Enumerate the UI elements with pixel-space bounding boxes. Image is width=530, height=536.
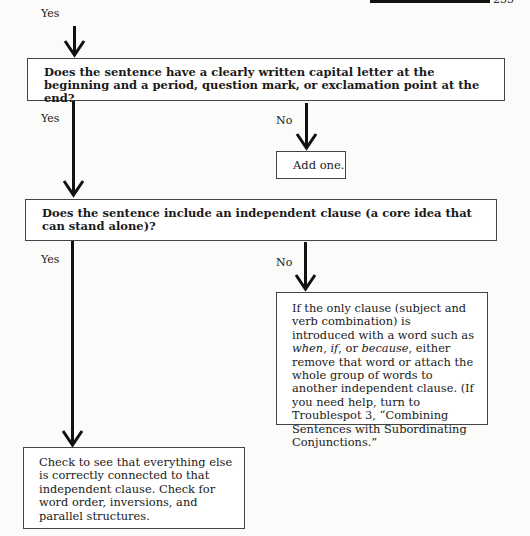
arrow-down-icon	[62, 430, 83, 446]
question-2-box: Does the sentence include an independent…	[25, 199, 497, 241]
arrow-down-icon	[63, 180, 84, 196]
add-one-text: Add one.	[293, 158, 344, 172]
advice-sep2: , or	[338, 341, 361, 355]
start-yes-label: Yes	[41, 7, 59, 20]
arrow-down-icon	[64, 40, 85, 56]
q2-yes-label: Yes	[41, 253, 59, 266]
q1-yes-label: Yes	[41, 112, 59, 125]
question-1-text: Does the sentence have a clearly written…	[44, 65, 479, 105]
header-bar	[370, 0, 490, 3]
advice-text-part1: If the only clause (subject and verb com…	[292, 301, 474, 342]
question-1-box: Does the sentence have a clearly written…	[27, 58, 505, 101]
arrow-down-icon	[295, 274, 316, 290]
check-text: Check to see that everything else is cor…	[39, 455, 232, 523]
q2-no-label: No	[276, 256, 292, 269]
independent-clause-check-box: Check to see that everything else is cor…	[23, 447, 245, 529]
advice-em-when: when	[292, 341, 323, 355]
arrow-down-icon	[296, 133, 317, 149]
add-one-box: Add one.	[276, 151, 346, 179]
advice-text-part2: , either remove that word or attach the …	[292, 341, 474, 449]
q1-no-label: No	[276, 114, 292, 127]
question-2-text: Does the sentence include an independent…	[42, 206, 472, 233]
page-number: 255	[493, 0, 514, 6]
advice-em-because: because	[361, 341, 408, 355]
q2-yes-connector	[71, 241, 74, 444]
subordinate-clause-advice-box: If the only clause (subject and verb com…	[276, 292, 488, 425]
